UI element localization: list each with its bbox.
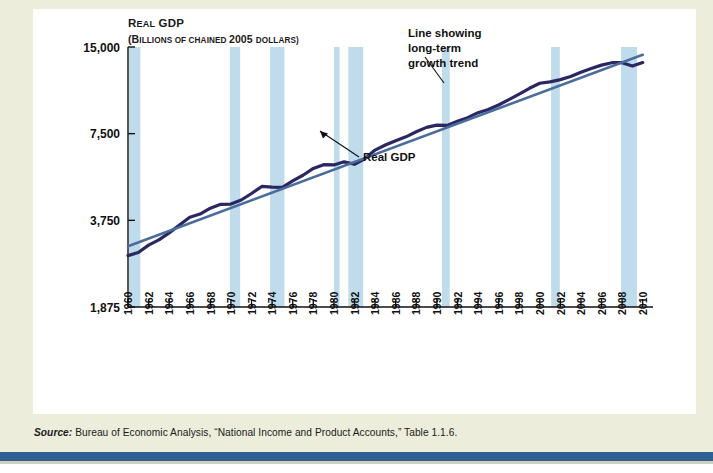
x-tick-label: 1968 [205, 291, 217, 315]
recession-band [621, 47, 637, 307]
real-gdp-line-chart: 1,8753,7507,50015,000 196019621964196619… [33, 9, 696, 414]
x-tick-label: 1978 [307, 291, 319, 315]
y-axis-ticks: 1,8753,7507,50015,000 [83, 41, 135, 315]
x-tick-label: 1998 [513, 291, 525, 315]
x-tick-label: 1988 [410, 291, 422, 315]
chart-axis-subtitle: (BILLIONS OF CHAINED 2005 DOLLARS) [128, 33, 299, 45]
source-note: Source: Bureau of Economic Analysis, “Na… [34, 427, 674, 438]
x-tick-label: 2004 [575, 291, 587, 315]
x-tick-label: 1990 [431, 291, 443, 315]
x-axis-ticks: 1960196219641966196819701972197419761978… [122, 291, 649, 315]
y-tick-label: 3,750 [90, 214, 120, 228]
x-tick-label: 1986 [390, 291, 402, 315]
x-tick-label: 1972 [246, 291, 258, 315]
x-tick-label: 1966 [184, 291, 196, 315]
x-tick-label: 2010 [637, 291, 649, 315]
y-tick-label: 7,500 [90, 127, 120, 141]
recession-band [348, 47, 363, 307]
x-tick-label: 1982 [349, 291, 361, 315]
x-tick-label: 1992 [452, 291, 464, 315]
bottom-strip [0, 464, 713, 473]
x-tick-label: 1976 [287, 291, 299, 315]
axes-group [128, 47, 653, 307]
recession-band [442, 47, 450, 307]
chart-canvas: 1,8753,7507,50015,000 196019621964196619… [33, 9, 696, 414]
x-tick-label: 2002 [555, 291, 567, 315]
x-tick-label: 2000 [534, 291, 546, 315]
x-tick-label: 1984 [369, 291, 381, 315]
recession-band [230, 47, 240, 307]
x-tick-label: 1962 [143, 291, 155, 315]
source-text: Bureau of Economic Analysis, “National I… [72, 427, 457, 438]
trend-annotation: Line showinglong-termgrowth trend [408, 27, 481, 69]
x-tick-label: 2006 [596, 291, 608, 315]
recession-band [334, 47, 340, 307]
bottom-rule [0, 452, 713, 461]
x-tick-label: 1994 [472, 291, 484, 315]
y-tick-label: 15,000 [83, 41, 120, 55]
source-label: Source: [34, 427, 72, 438]
x-tick-label: 1974 [266, 291, 278, 315]
x-tick-label: 1980 [328, 291, 340, 315]
real-gdp-arrowhead [320, 131, 328, 139]
x-tick-label: 1960 [122, 291, 134, 315]
figure-root: 1,8753,7507,50015,000 196019621964196619… [0, 0, 713, 473]
y-tick-label: 1,875 [90, 301, 120, 315]
real-gdp-annotation: Real GDP [363, 151, 416, 163]
x-tick-label: 1970 [225, 291, 237, 315]
recession-band [129, 47, 140, 307]
x-tick-label: 1996 [493, 291, 505, 315]
recession-band [270, 47, 284, 307]
y-axis-title-group: REAL GDP (BILLIONS OF CHAINED 2005 DOLLA… [128, 17, 299, 45]
chart-axis-title: REAL GDP [128, 17, 184, 29]
x-tick-label: 1964 [163, 291, 175, 315]
x-tick-label: 2008 [616, 291, 628, 315]
annotations-group: Line showinglong-termgrowth trendReal GD… [320, 27, 481, 163]
